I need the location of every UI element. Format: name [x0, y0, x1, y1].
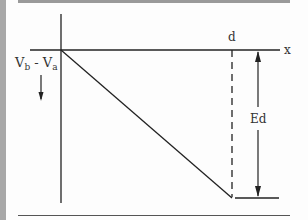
distance-label: d — [228, 30, 236, 44]
arrow-down-icon — [39, 92, 44, 101]
figure-frame: Vb - Va x d Ed — [0, 0, 308, 220]
x-axis-label: x — [284, 43, 291, 57]
arrowhead-down-icon — [255, 186, 261, 197]
y-axis-label: Vb - Va — [14, 55, 58, 72]
magnitude-label: Ed — [250, 112, 267, 126]
potential-line — [61, 50, 232, 198]
arrowhead-up-icon — [255, 51, 261, 62]
potential-diagram: Vb - Va x d Ed — [0, 0, 308, 220]
